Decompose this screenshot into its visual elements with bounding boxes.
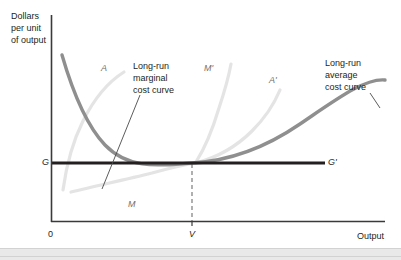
card-bottom-divider xyxy=(0,248,401,249)
x-axis-title: Output xyxy=(357,231,384,242)
curve-label-a-prime: A' xyxy=(269,75,277,86)
plot-canvas xyxy=(0,0,401,260)
y-axis-title-line-1: Dollars xyxy=(11,11,39,22)
curve-label-m: M xyxy=(128,199,136,210)
lmc-annotation-line-1: Long-run xyxy=(133,61,169,72)
lrac-leader-line xyxy=(370,93,380,108)
origin-label: 0 xyxy=(48,229,53,240)
y-axis-title-line-2: per unit xyxy=(11,23,41,34)
page-bottom-divider xyxy=(0,256,401,257)
y-tick-label-g: G xyxy=(42,157,49,168)
y-tick-label-g-prime: G' xyxy=(328,157,337,168)
lrac-annotation-line-3: cost curve xyxy=(325,82,366,93)
lmc-annotation-line-3: cost curve xyxy=(133,85,174,96)
curve-label-a: A xyxy=(101,63,107,74)
curve-m-prime-path xyxy=(196,64,231,162)
lmc-leader-line xyxy=(102,95,140,189)
y-axis-title-line-3: of output xyxy=(11,35,46,46)
lrac-annotation-line-1: Long-run xyxy=(325,58,361,69)
curve-label-m-prime: M' xyxy=(204,63,213,74)
curve-a-prime-path xyxy=(196,90,280,163)
lmc-annotation-line-2: marginal xyxy=(133,73,168,84)
lrac-annotation-line-2: average xyxy=(325,70,358,81)
curve-m-path xyxy=(71,163,196,192)
figure-root: Dollars per unit of output Output 0 V G … xyxy=(0,0,401,260)
x-tick-label-v: V xyxy=(189,229,195,240)
